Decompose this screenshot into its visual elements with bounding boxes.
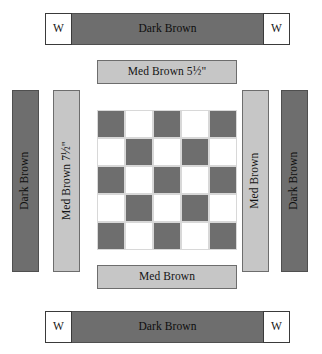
left-dark-brown-strip-label: Dark Brown — [20, 152, 32, 210]
right-dark-brown-strip: Dark Brown — [281, 90, 308, 272]
checkerboard-cell-dark — [209, 222, 237, 250]
checkerboard-cell-light — [97, 194, 125, 222]
bottom-right-white-square: W — [263, 311, 290, 343]
top-right-white-label: W — [271, 23, 282, 35]
checkerboard-cell-light — [209, 194, 237, 222]
checkerboard-cell-light — [97, 138, 125, 166]
top-med-brown-strip-label: Med Brown 5½" — [128, 66, 207, 78]
checkerboard-cell-dark — [181, 194, 209, 222]
checkerboard-cell-dark — [153, 222, 181, 250]
checkerboard-cell-dark — [153, 110, 181, 138]
top-dark-brown-rail: Dark Brown — [45, 13, 290, 45]
top-left-white-label: W — [53, 23, 64, 35]
bottom-right-white-label: W — [271, 321, 282, 333]
left-med-brown-strip-label: Med Brown 7½" — [61, 142, 73, 221]
right-dark-brown-strip-label: Dark Brown — [289, 152, 301, 210]
bottom-med-brown-strip: Med Brown — [97, 265, 237, 289]
bottom-left-white-square: W — [45, 311, 72, 343]
checkerboard-cell-light — [181, 166, 209, 194]
bottom-dark-brown-rail: Dark Brown — [45, 311, 290, 343]
checkerboard-cell-light — [125, 166, 153, 194]
top-right-white-square: W — [263, 13, 290, 45]
checkerboard-cell-light — [125, 110, 153, 138]
checkerboard-cell-dark — [125, 194, 153, 222]
checkerboard-cell-dark — [97, 222, 125, 250]
checkerboard-cell-dark — [97, 166, 125, 194]
checkerboard-cell-dark — [97, 110, 125, 138]
checkerboard-cell-light — [153, 138, 181, 166]
checkerboard-cell-light — [181, 110, 209, 138]
checkerboard-cell-light — [209, 138, 237, 166]
left-med-brown-strip: Med Brown 7½" — [53, 90, 80, 272]
checkerboard-cell-light — [181, 222, 209, 250]
bottom-left-white-label: W — [53, 321, 64, 333]
checkerboard-cell-dark — [209, 166, 237, 194]
bottom-rail-label: Dark Brown — [138, 321, 196, 333]
checkerboard-cell-dark — [209, 110, 237, 138]
right-med-brown-strip: Med Brown — [242, 90, 269, 272]
bottom-med-brown-strip-label: Med Brown — [139, 271, 195, 283]
checkerboard-cell-light — [153, 194, 181, 222]
top-med-brown-strip: Med Brown 5½" — [97, 60, 237, 84]
checkerboard-cell-dark — [125, 138, 153, 166]
left-dark-brown-strip: Dark Brown — [12, 90, 39, 272]
right-med-brown-strip-label: Med Brown — [250, 153, 262, 209]
checkerboard-cell-light — [125, 222, 153, 250]
top-left-white-square: W — [45, 13, 72, 45]
quilt-layout-diagram: Dark Brown W W Med Brown 5½" Dark Brown … — [0, 0, 322, 354]
checkerboard-grid — [97, 110, 237, 250]
top-rail-label: Dark Brown — [138, 23, 196, 35]
checkerboard-cell-dark — [181, 138, 209, 166]
checkerboard-cell-dark — [153, 166, 181, 194]
